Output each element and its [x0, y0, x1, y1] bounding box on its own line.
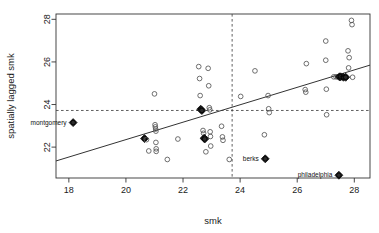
x-tick-label: 22	[178, 185, 188, 195]
y-tick-label: 28	[42, 14, 52, 24]
y-tick-label: 24	[42, 100, 52, 110]
y-tick-label: 22	[42, 142, 52, 152]
point-label-philadelphia: philadelphia	[298, 171, 333, 179]
x-tick-label: 26	[292, 185, 302, 195]
point-label-berks: berks	[243, 155, 260, 162]
y-axis-title: spatially lagged smk	[5, 53, 16, 139]
y-tick-label: 26	[42, 57, 52, 67]
x-tick-label: 28	[349, 185, 359, 195]
point-label-montgomery: montgomery	[31, 119, 68, 127]
x-tick-label: 20	[121, 185, 131, 195]
figure-background	[0, 0, 379, 233]
scatter-plot-figure: 18202224262822242628 montgomeryberksphil…	[0, 0, 379, 233]
plot-canvas: 18202224262822242628 montgomeryberksphil…	[0, 0, 379, 233]
x-tick-label: 18	[64, 185, 74, 195]
x-tick-label: 24	[235, 185, 245, 195]
x-axis-title: smk	[204, 215, 222, 226]
